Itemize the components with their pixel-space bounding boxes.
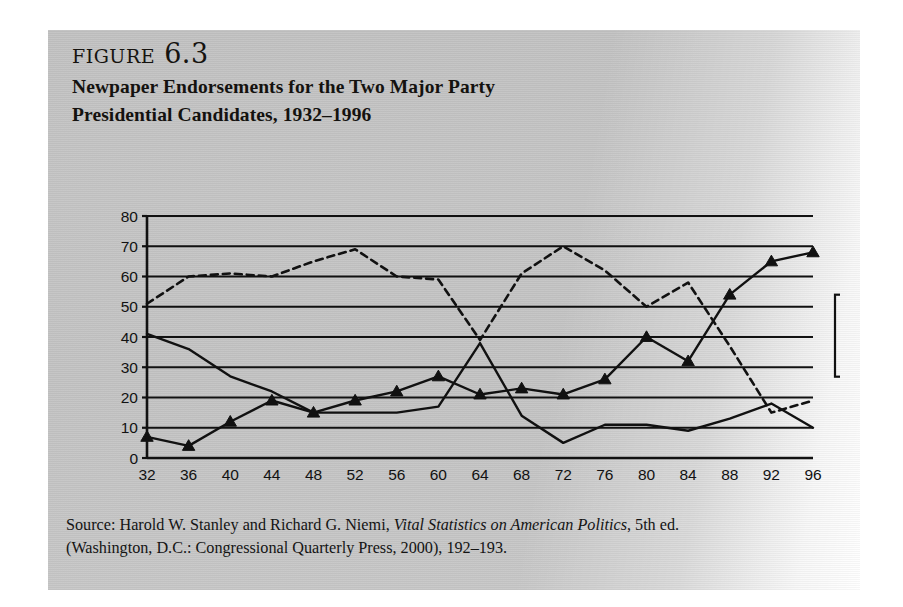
- source-suffix: , 5th ed.: [627, 516, 679, 534]
- x-tick-label: 72: [555, 466, 572, 483]
- series-marker-uncommitted: [682, 355, 694, 366]
- y-tick-label: 70: [121, 238, 139, 255]
- figure-title: Newpaper Endorsements for the Two Major …: [72, 73, 692, 128]
- source-prefix: Source: Harold W. Stanley and Richard G.…: [66, 516, 394, 534]
- x-axis-tick-labels: 3236404448525660646872768084889296: [138, 466, 821, 483]
- series-marker-uncommitted: [515, 382, 527, 393]
- x-tick-label: 56: [388, 466, 405, 483]
- chart-legend: RepublicanDemocraticUncommitted: [835, 295, 840, 377]
- x-tick-label: 84: [680, 466, 698, 483]
- source-note: Source: Harold W. Stanley and Richard G.…: [66, 514, 856, 560]
- x-tick-label: 40: [222, 466, 240, 483]
- x-tick-label: 52: [347, 466, 364, 483]
- x-tick-label: 44: [263, 466, 281, 483]
- x-tick-label: 68: [513, 466, 530, 483]
- figure-title-line-1: Newpaper Endorsements for the Two Major …: [72, 73, 692, 101]
- y-tick-label: 10: [121, 419, 139, 436]
- x-tick-label: 92: [763, 466, 780, 483]
- y-tick-label: 60: [121, 268, 139, 285]
- series-marker-uncommitted: [266, 394, 278, 405]
- y-axis-tick-labels: 01020304050607080: [121, 208, 139, 467]
- y-tick-label: 30: [121, 359, 139, 376]
- x-tick-label: 64: [471, 466, 489, 483]
- y-tick-label: 80: [121, 208, 139, 225]
- chart-svg: 01020304050607080 3236404448525660646872…: [95, 208, 840, 498]
- source-line-1: Source: Harold W. Stanley and Richard G.…: [66, 514, 856, 537]
- source-line-2: (Washington, D.C.: Congressional Quarter…: [66, 537, 856, 560]
- x-tick-label: 48: [305, 466, 322, 483]
- series-line-uncommitted: [147, 252, 813, 446]
- y-tick-label: 0: [129, 450, 138, 467]
- series-marker-uncommitted: [807, 246, 819, 257]
- x-tick-label: 88: [721, 466, 738, 483]
- legend-box: [835, 295, 840, 377]
- x-tick-label: 36: [180, 466, 197, 483]
- line-chart: 01020304050607080 3236404448525660646872…: [95, 208, 840, 498]
- figure-number: figure 6.3: [72, 40, 692, 68]
- series-marker-uncommitted: [432, 370, 444, 381]
- y-tick-label: 20: [121, 389, 139, 406]
- source-title-italic: Vital Statistics on American Politics: [394, 516, 627, 534]
- x-tick-label: 32: [138, 466, 155, 483]
- y-tick-label: 50: [121, 298, 139, 315]
- x-tick-label: 76: [596, 466, 613, 483]
- x-tick-label: 96: [804, 466, 821, 483]
- x-tick-label: 60: [430, 466, 448, 483]
- figure-header: figure 6.3 Newpaper Endorsements for the…: [72, 40, 692, 129]
- x-tick-label: 80: [638, 466, 656, 483]
- y-tick-label: 40: [121, 329, 139, 346]
- figure-page: figure 6.3 Newpaper Endorsements for the…: [0, 0, 903, 607]
- figure-title-line-2: Presidential Candidates, 1932–1996: [72, 101, 692, 129]
- chart-gridlines: [147, 216, 813, 458]
